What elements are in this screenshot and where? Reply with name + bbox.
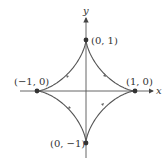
x-axis-label: x [156,85,162,96]
point-right [133,89,138,94]
label-point-top: (0, 1) [91,35,118,46]
point-top [84,38,89,43]
y-axis-label: y [82,5,89,16]
point-left [35,89,40,94]
label-point-right: (1, 0) [126,76,153,87]
label-point-left: (−1, 0) [14,76,49,87]
astroid-diagram: x y (0, 1) (−1, 0) (1, 0) (0, −1) [0,0,167,164]
label-point-bottom: (0, −1) [50,138,85,149]
